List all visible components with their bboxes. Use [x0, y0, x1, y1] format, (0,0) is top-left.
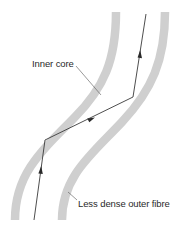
arrow-right-icon — [87, 118, 95, 123]
arrow-up-icon — [138, 50, 142, 58]
inner-core-leader-line — [76, 66, 101, 95]
fibre-diagram — [0, 0, 182, 229]
arrow-up-icon — [38, 166, 42, 174]
outer-fibre-label: Less dense outer fibre — [78, 199, 170, 209]
inner-core-label: Inner core — [32, 59, 74, 69]
